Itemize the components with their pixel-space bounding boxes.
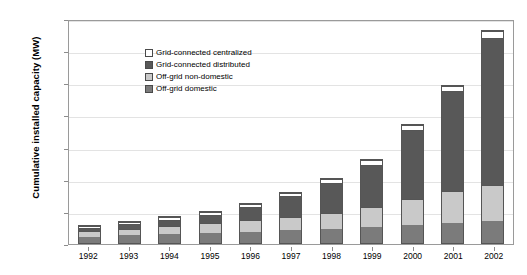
y-axis-tick-mark: [64, 116, 68, 117]
legend-item-label: Grid-connected distributed: [156, 61, 250, 69]
x-axis-tick-label: 1994: [149, 247, 190, 267]
stacked-bar[interactable]: [158, 216, 181, 244]
x-axis-tick-label: 1998: [311, 247, 352, 267]
x-axis-labels: 1992199319941995199619971998199920002001…: [68, 247, 514, 267]
stacked-bar[interactable]: [279, 192, 302, 244]
bar-segment[interactable]: [159, 234, 180, 243]
bar-segment[interactable]: [482, 185, 503, 221]
legend-item: Off-grid domestic: [145, 84, 252, 94]
stacked-bar[interactable]: [360, 159, 383, 244]
stacked-bar[interactable]: [481, 30, 504, 244]
y-axis-tick-mark: [64, 245, 68, 246]
x-axis-tick-mark: [88, 247, 89, 251]
legend-swatch-icon: [145, 49, 153, 57]
bar-segment[interactable]: [200, 215, 221, 224]
legend-item: Off-grid non-domestic: [145, 72, 252, 82]
x-axis-tick-label: 1997: [271, 247, 312, 267]
y-axis-tick-mark: [64, 181, 68, 182]
x-axis-tick-label: 1992: [68, 247, 109, 267]
stacked-bar[interactable]: [239, 203, 262, 244]
x-axis-tick-mark: [291, 247, 292, 251]
y-axis-tick-mark: [64, 84, 68, 85]
bar-group: [392, 21, 432, 244]
bar-group: [109, 21, 149, 244]
bar-segment[interactable]: [321, 213, 342, 229]
bar-segment[interactable]: [280, 230, 301, 243]
bar-segment[interactable]: [361, 227, 382, 243]
bar-segment[interactable]: [240, 207, 261, 220]
y-axis-tick-mark: [64, 20, 68, 21]
legend-item: Grid-connected centralized: [145, 48, 252, 58]
x-axis-tick-label: 1993: [109, 247, 150, 267]
legend-item-label: Off-grid domestic: [156, 85, 217, 93]
stacked-bar[interactable]: [78, 225, 101, 244]
x-axis-tick-label: 2002: [473, 247, 514, 267]
x-axis-tick-mark: [210, 247, 211, 251]
bar-segment[interactable]: [79, 237, 100, 243]
bar-segment[interactable]: [240, 232, 261, 243]
x-axis-tick-label: 2000: [392, 247, 433, 267]
stacked-bar[interactable]: [118, 221, 141, 244]
x-axis-tick-mark: [453, 247, 454, 251]
bar-segment[interactable]: [402, 130, 423, 199]
x-axis-tick-label: 1999: [352, 247, 393, 267]
x-axis-tick-mark: [129, 247, 130, 251]
bar-segment[interactable]: [321, 229, 342, 243]
legend-item: Grid-connected distributed: [145, 60, 252, 70]
y-axis-title: Cumulative installed capacity (MW): [30, 10, 41, 225]
legend-swatch-icon: [145, 73, 153, 81]
stacked-bar[interactable]: [441, 85, 464, 244]
legend: Grid-connected centralizedGrid-connected…: [145, 48, 252, 96]
bar-segment[interactable]: [442, 91, 463, 191]
x-axis-tick-label: 1996: [230, 247, 271, 267]
x-axis-tick-mark: [250, 247, 251, 251]
plot-area: Grid-connected centralizedGrid-connected…: [68, 20, 514, 245]
bar-segment[interactable]: [482, 221, 503, 243]
bar-segment[interactable]: [482, 38, 503, 185]
bar-segment[interactable]: [361, 207, 382, 227]
x-axis-tick-mark: [332, 247, 333, 251]
legend-swatch-icon: [145, 61, 153, 69]
bar-segment[interactable]: [200, 223, 221, 233]
bar-group: [311, 21, 351, 244]
bar-segment[interactable]: [280, 217, 301, 231]
y-axis-tick-mark: [64, 213, 68, 214]
bar-segment[interactable]: [280, 196, 301, 217]
bar-group: [69, 21, 109, 244]
x-axis-tick-mark: [413, 247, 414, 251]
bar-segment[interactable]: [200, 233, 221, 243]
x-axis-tick-mark: [372, 247, 373, 251]
x-axis-tick-mark: [494, 247, 495, 251]
stacked-bar[interactable]: [401, 124, 424, 244]
x-axis-tick-label: 2001: [433, 247, 474, 267]
bar-group: [432, 21, 472, 244]
bar-series-group: [69, 21, 513, 244]
y-axis-tick-mark: [64, 149, 68, 150]
stacked-bar[interactable]: [199, 211, 222, 244]
bar-segment[interactable]: [159, 226, 180, 234]
legend-swatch-icon: [145, 85, 153, 93]
x-axis-tick-label: 1995: [190, 247, 231, 267]
bar-segment[interactable]: [240, 220, 261, 232]
bar-segment[interactable]: [402, 225, 423, 243]
legend-item-label: Off-grid non-domestic: [156, 73, 233, 81]
bar-group: [352, 21, 392, 244]
bar-group: [271, 21, 311, 244]
bar-segment[interactable]: [119, 235, 140, 243]
bar-segment[interactable]: [482, 31, 503, 38]
bar-segment[interactable]: [361, 165, 382, 208]
y-axis-tick-mark: [64, 52, 68, 53]
bar-group: [473, 21, 513, 244]
bar-segment[interactable]: [119, 229, 140, 236]
bar-segment[interactable]: [442, 191, 463, 223]
bar-segment[interactable]: [402, 199, 423, 226]
legend-item-label: Grid-connected centralized: [156, 49, 252, 57]
chart-root: Cumulative installed capacity (MW) Grid-…: [0, 0, 527, 275]
x-axis-tick-mark: [169, 247, 170, 251]
bar-segment[interactable]: [321, 183, 342, 213]
stacked-bar[interactable]: [320, 178, 343, 244]
bar-segment[interactable]: [442, 223, 463, 243]
